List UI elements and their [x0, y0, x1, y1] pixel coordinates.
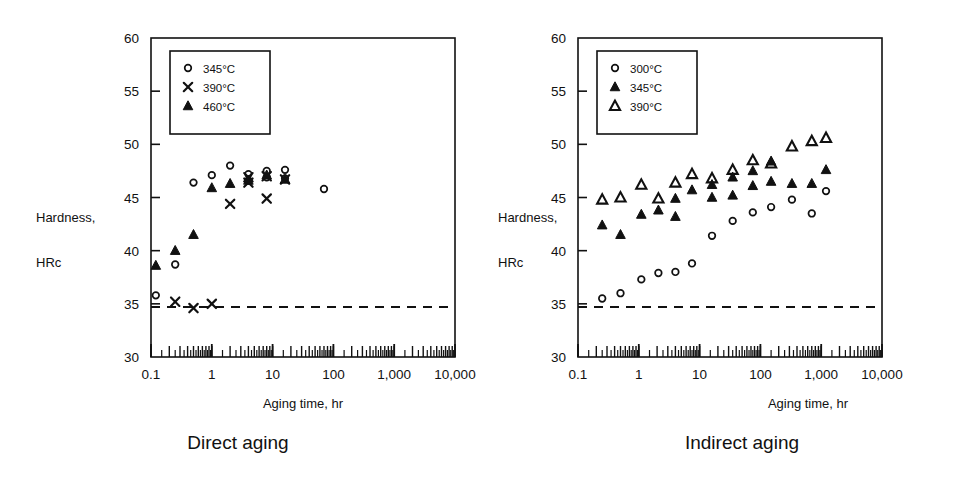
- x-tick-label: 1,000: [804, 367, 838, 382]
- data-point: [821, 133, 831, 142]
- data-point: [707, 192, 717, 201]
- data-point: [709, 232, 716, 239]
- y-axis-label-line1: Hardness,: [36, 210, 95, 225]
- y-axis-label-line2: HRc: [498, 255, 557, 270]
- data-point: [172, 261, 179, 268]
- data-point: [151, 260, 161, 269]
- legend: 300°C345°C390°C: [597, 51, 697, 134]
- x-tick-label: 1: [208, 367, 216, 382]
- x-tick-label: 10,000: [861, 367, 902, 382]
- caption-direct-aging: Direct aging: [58, 432, 418, 454]
- data-point: [729, 218, 736, 225]
- y-tick-label: 55: [551, 84, 566, 99]
- data-point: [672, 269, 679, 276]
- data-point: [321, 186, 328, 193]
- legend-label-1: 345°C: [630, 82, 662, 94]
- y-tick-label: 30: [551, 350, 566, 365]
- y-tick-label: 40: [124, 244, 139, 259]
- data-point: [808, 210, 815, 217]
- legend-label-1: 390°C: [203, 82, 235, 94]
- data-point: [789, 196, 796, 203]
- series-345C: [597, 156, 830, 238]
- y-axis-label-line1: Hardness,: [498, 210, 557, 225]
- data-point: [227, 162, 234, 169]
- series-390C: [597, 133, 831, 204]
- y-tick-label: 35: [124, 297, 139, 312]
- data-point: [638, 276, 645, 283]
- data-point: [655, 270, 662, 277]
- data-point: [671, 211, 681, 220]
- series-345C: [153, 162, 328, 298]
- data-point: [207, 183, 217, 192]
- legend-label-0: 345°C: [203, 63, 235, 75]
- data-point: [787, 141, 797, 150]
- data-point: [616, 230, 626, 239]
- data-point: [282, 167, 289, 174]
- series-390C: [171, 172, 289, 312]
- data-point: [807, 178, 817, 187]
- data-point: [190, 179, 197, 186]
- y-tick-label: 60: [551, 31, 566, 46]
- data-point: [787, 178, 797, 187]
- data-point: [597, 220, 607, 229]
- legend: 345°C390°C460°C: [170, 51, 270, 134]
- x-tick-label: 10: [692, 367, 707, 382]
- data-point: [748, 155, 758, 164]
- x-tick-label: 10,000: [434, 367, 475, 382]
- data-point: [807, 136, 817, 145]
- plot-group: 303540455055600.11101001,00010,000345°C3…: [124, 31, 476, 382]
- data-point: [597, 194, 607, 203]
- data-point: [748, 166, 758, 175]
- data-point: [750, 209, 757, 216]
- data-point: [153, 292, 160, 299]
- data-point: [209, 172, 216, 179]
- data-point: [170, 245, 180, 254]
- x-tick-label: 0.1: [142, 367, 161, 382]
- x-tick-label: 1: [635, 367, 643, 382]
- data-point: [599, 295, 606, 302]
- legend-label-2: 460°C: [203, 101, 235, 113]
- x-axis-label-indirect: Aging time, hr: [658, 396, 955, 411]
- plot-group: 303540455055600.11101001,00010,000300°C3…: [551, 31, 903, 382]
- y-tick-label: 30: [124, 350, 139, 365]
- data-point: [766, 176, 776, 185]
- panel-indirect-aging: 303540455055600.11101001,00010,000300°C3…: [478, 0, 955, 494]
- y-tick-label: 50: [551, 137, 566, 152]
- x-tick-label: 10: [265, 367, 280, 382]
- x-axis-label-direct: Aging time, hr: [153, 396, 453, 411]
- series-300C: [599, 188, 829, 302]
- x-tick-label: 1,000: [377, 367, 411, 382]
- panel-direct-aging: 303540455055600.11101001,00010,000345°C3…: [0, 0, 477, 494]
- data-point: [617, 290, 624, 297]
- data-point: [823, 188, 830, 195]
- data-point: [654, 205, 664, 214]
- y-axis-label-line2: HRc: [36, 255, 95, 270]
- data-point: [225, 178, 235, 187]
- data-point: [189, 230, 199, 239]
- figure-root: 303540455055600.11101001,00010,000345°C3…: [0, 0, 955, 494]
- data-point: [687, 169, 697, 178]
- data-point: [653, 193, 663, 202]
- caption-indirect-aging: Indirect aging: [562, 432, 922, 454]
- legend-label-0: 300°C: [630, 63, 662, 75]
- y-axis-label-indirect: Hardness, HRc: [498, 180, 557, 300]
- data-point: [670, 177, 680, 186]
- y-axis-label-direct: Hardness, HRc: [36, 180, 95, 300]
- data-point: [768, 204, 775, 211]
- data-point: [687, 185, 697, 194]
- legend-label-2: 390°C: [630, 101, 662, 113]
- data-point: [615, 192, 625, 201]
- data-point: [689, 260, 696, 267]
- y-tick-label: 55: [124, 84, 139, 99]
- data-point: [821, 165, 831, 174]
- data-point: [636, 179, 646, 188]
- data-point: [671, 193, 681, 202]
- data-point: [728, 190, 738, 199]
- y-tick-label: 60: [124, 31, 139, 46]
- y-tick-label: 50: [124, 137, 139, 152]
- x-tick-label: 0.1: [569, 367, 588, 382]
- x-tick-label: 100: [322, 367, 345, 382]
- x-tick-label: 100: [749, 367, 772, 382]
- data-point: [748, 181, 758, 190]
- data-point: [637, 209, 647, 218]
